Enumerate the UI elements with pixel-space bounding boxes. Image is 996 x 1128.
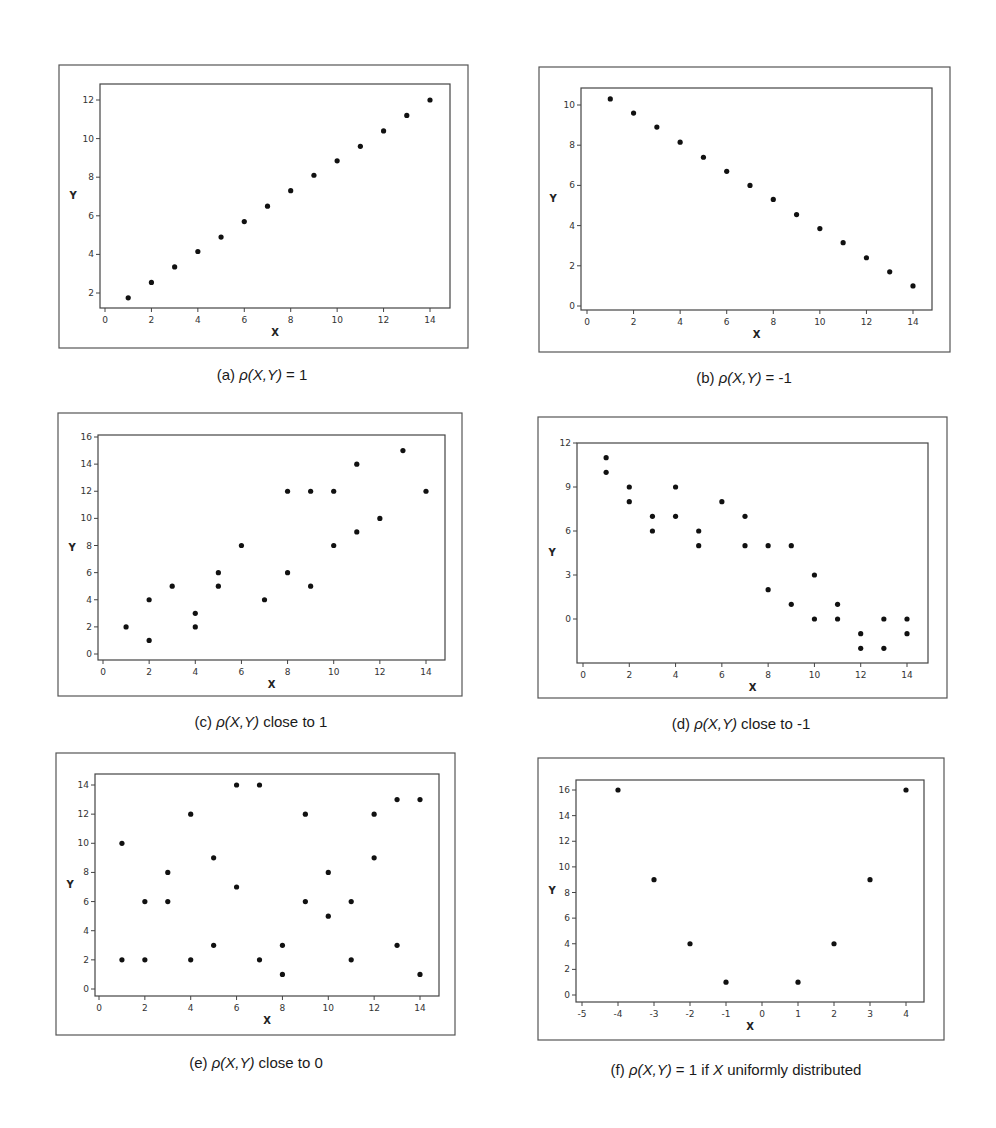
x-tick-label: 14 [901,670,913,680]
data-point [349,899,354,904]
data-point [358,144,363,149]
data-point [904,616,909,621]
y-tick-label: 2 [88,288,94,298]
y-tick-label: 6 [569,180,575,190]
plot-area [100,84,450,308]
data-point [331,489,336,494]
data-point [654,125,659,130]
y-tick-label: 6 [83,897,89,907]
x-tick-label: 14 [424,315,436,325]
data-point [326,870,331,875]
data-point [308,584,313,589]
y-tick-label: 6 [565,526,571,536]
data-point [126,295,131,300]
scatter-panel-e: 0246810121402468101214XY [56,753,455,1035]
x-tick-label: -5 [578,1009,587,1019]
data-point [331,543,336,548]
y-tick-label: 2 [83,955,89,965]
x-tick-label: 0 [102,315,108,325]
data-point [608,96,613,101]
data-point [831,941,836,946]
x-tick-label: 2 [149,315,155,325]
caption-label: (b) [696,369,714,386]
data-point [724,169,729,174]
y-tick-label: 10 [83,134,95,144]
x-tick-label: 0 [584,317,590,327]
y-tick-label: 8 [83,867,89,877]
data-point [904,631,909,636]
data-point [354,462,359,467]
y-tick-label: 3 [565,570,571,580]
x-tick-label: 14 [420,667,432,677]
rho-symbol: ρ [694,715,703,732]
data-point [303,899,308,904]
data-point [650,514,655,519]
data-point [211,855,216,860]
y-tick-label: 14 [78,780,90,790]
data-point [193,624,198,629]
y-axis-label: Y [548,193,557,204]
y-tick-label: 2 [564,964,570,974]
data-point [257,957,262,962]
data-point [335,158,340,163]
x-tick-label: 3 [867,1009,873,1019]
data-point [119,841,124,846]
data-point [242,219,247,224]
data-point [687,941,692,946]
x-tick-label: 8 [280,1003,286,1013]
caption-f: (f) ρ(X,Y) = 1 if X uniformly distribute… [611,1061,862,1078]
caption-args: (X,Y) [638,1061,672,1078]
data-point [678,140,683,145]
caption-args: (X,Y) [248,366,282,383]
data-point [789,602,794,607]
x-tick-label: 6 [724,317,730,327]
data-point [257,782,262,787]
y-tick-label: 0 [86,649,92,659]
scatter-panel-a: 0246810121424681012XY [59,65,468,348]
data-point [910,283,915,288]
y-tick-label: 6 [564,913,570,923]
y-tick-label: 6 [88,211,94,221]
data-point [795,980,800,985]
caption-rest: = 1 [282,366,307,383]
data-point [149,280,154,285]
data-point [188,957,193,962]
data-point [218,234,223,239]
scatter-panel-c: 024681012140246810121416XY [58,413,462,696]
y-tick-label: 0 [564,990,570,1000]
caption-rest: = 1 if [672,1061,713,1078]
x-tick-label: 2 [631,317,637,327]
x-tick-label: 8 [288,315,294,325]
data-point [354,529,359,534]
x-tick-label: -1 [722,1009,731,1019]
y-tick-label: 16 [81,432,93,442]
data-point [119,957,124,962]
data-point [165,870,170,875]
y-tick-label: 12 [559,836,570,846]
caption-rest: close to -1 [737,715,810,732]
x-tick-label: 10 [328,667,340,677]
y-tick-label: 14 [81,459,93,469]
data-point [239,543,244,548]
data-point [812,572,817,577]
y-axis-label: Y [67,542,76,553]
scatter-panel-d: 02468101214036912XY [538,417,947,698]
caption-tail: uniformly distributed [723,1061,861,1078]
data-point [142,957,147,962]
x-tick-label: 10 [809,670,821,680]
data-point [195,249,200,254]
y-axis-label: Y [547,547,556,558]
data-point [394,797,399,802]
caption-label: (f) [611,1061,625,1078]
data-point [280,943,285,948]
caption-c: (c) ρ(X,Y) close to 1 [195,713,328,730]
data-point [627,484,632,489]
data-point [123,624,128,629]
data-point [903,787,908,792]
data-point [349,957,354,962]
x-tick-label: 8 [285,667,291,677]
x-tick-label: 0 [580,670,586,680]
data-point [372,855,377,860]
y-tick-label: 12 [560,438,571,448]
data-point [423,489,428,494]
